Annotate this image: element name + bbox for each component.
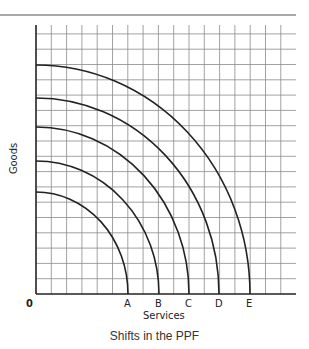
x-axis-label: Services	[143, 309, 185, 322]
x-tick-label-d: D	[215, 297, 223, 310]
x-tick-label-c: C	[185, 297, 192, 310]
x-tick-label-e: E	[246, 297, 252, 310]
y-axis-label: Goods	[7, 143, 20, 174]
diagram-caption: Shifts in the PPF	[0, 329, 309, 343]
grid	[36, 25, 296, 294]
axes	[36, 25, 296, 294]
origin-label: 0	[26, 297, 33, 310]
x-tick-label-a: A	[124, 297, 131, 310]
